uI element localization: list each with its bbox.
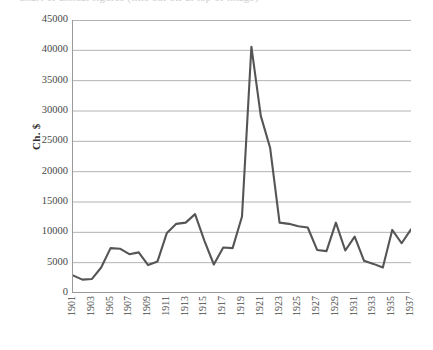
x-tick-label: 1901 — [66, 296, 80, 336]
x-tick-label: 1923 — [273, 296, 287, 336]
x-tick-label: 1909 — [141, 296, 155, 336]
x-tick-label: 1905 — [104, 296, 118, 336]
y-tick-label: 25000 — [24, 135, 68, 146]
y-tick-label: 10000 — [24, 226, 68, 237]
x-tick-label: 1915 — [197, 296, 211, 336]
y-tick-label: 15000 — [24, 196, 68, 207]
y-tick-label: 0 — [24, 287, 68, 298]
y-tick-label: 5000 — [24, 257, 68, 268]
chart-svg — [73, 20, 411, 293]
x-axis-tick-labels: 1901190319051907190919111913191519171919… — [72, 296, 410, 350]
x-tick-label: 1937 — [404, 296, 418, 336]
y-tick-label: 40000 — [24, 44, 68, 55]
plot-area — [72, 20, 410, 293]
y-tick-label: 30000 — [24, 105, 68, 116]
x-tick-label: 1935 — [385, 296, 399, 336]
x-tick-label: 1927 — [310, 296, 324, 336]
x-tick-label: 1907 — [122, 296, 136, 336]
x-tick-label: 1903 — [85, 296, 99, 336]
y-axis-tick-labels: 0500010000150002000025000300003500040000… — [24, 0, 68, 350]
x-tick-label: 1929 — [329, 296, 343, 336]
gridlines — [73, 20, 411, 263]
x-tick-label: 1933 — [366, 296, 380, 336]
x-tick-label: 1925 — [291, 296, 305, 336]
x-tick-label: 1911 — [160, 296, 174, 336]
x-tick-label: 1931 — [348, 296, 362, 336]
x-tick-label: 1917 — [216, 296, 230, 336]
data-series-line — [73, 47, 411, 280]
y-tick-label: 35000 — [24, 75, 68, 86]
x-tick-label: 1921 — [254, 296, 268, 336]
chart-container: Chart of annual figures (title cut off a… — [0, 0, 433, 350]
y-tick-label: 45000 — [24, 14, 68, 25]
y-tick-label: 20000 — [24, 166, 68, 177]
x-tick-label: 1919 — [235, 296, 249, 336]
x-tick-label: 1913 — [179, 296, 193, 336]
